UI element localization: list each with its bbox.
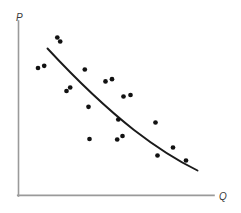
data-point [155,153,160,158]
data-point [64,89,69,94]
plot-axes [18,21,214,196]
data-point [120,134,125,139]
data-point [86,104,91,109]
data-point [55,35,60,40]
data-point [121,94,126,99]
data-point [103,79,108,84]
data-point [171,145,176,150]
demand-curve-figure: P Q [0,0,241,213]
data-point [82,67,87,72]
fitted-curve [48,49,198,171]
scatter-points [36,35,189,163]
fitted-curve-path [48,49,198,171]
data-point [184,158,189,163]
data-point [58,39,63,44]
data-point [153,120,158,125]
data-point [36,66,41,71]
data-point [68,85,73,90]
data-point [115,137,120,142]
data-point [110,77,115,82]
y-axis-label: P [16,13,23,23]
data-point [128,93,133,98]
data-point [87,137,92,142]
data-point [116,117,121,122]
data-point [42,63,47,68]
scatter-plot-canvas [0,0,241,213]
x-axis-label: Q [219,192,227,202]
